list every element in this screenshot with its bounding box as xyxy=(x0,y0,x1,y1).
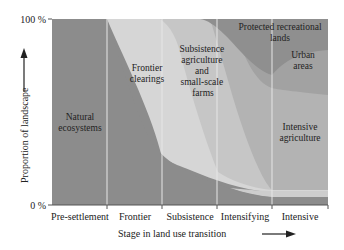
y-tick-0: 0 % xyxy=(30,200,46,211)
x-tick-pre-settlement: Pre-settlement xyxy=(51,211,109,222)
x-tick-intensifying: Intensifying xyxy=(221,211,269,222)
x-tick-frontier: Frontier xyxy=(119,211,152,222)
label-urban: Urbanareas xyxy=(291,50,315,71)
label-frontier: Frontierclearings xyxy=(130,63,165,84)
right-arrow-icon xyxy=(286,231,296,238)
x-tick-subsistence: Subsistence xyxy=(166,211,214,222)
up-arrow-icon xyxy=(21,48,28,58)
label-intensive: Intensiveagriculture xyxy=(279,122,320,143)
land-use-chart: 100 % 0 % Proportion of landscape Pre-se… xyxy=(0,0,344,250)
y-axis-label-group: Proportion of landscape xyxy=(19,48,30,183)
y-axis-label: Proportion of landscape xyxy=(19,87,30,183)
x-axis-label: Stage in land use transition xyxy=(118,228,226,239)
y-tick-100: 100 % xyxy=(20,14,46,25)
x-tick-intensive: Intensive xyxy=(282,211,319,222)
